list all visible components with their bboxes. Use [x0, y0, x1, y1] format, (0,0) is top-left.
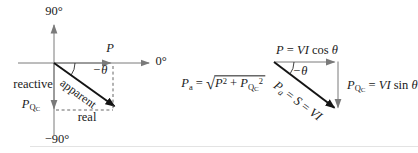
left-0deg-label: 0° [155, 55, 166, 69]
left-pqc-label: PQC [22, 98, 40, 114]
radical-sign: √ [206, 74, 215, 93]
pqc-base: P [22, 97, 30, 111]
left-neg-theta-label: −θ [93, 64, 108, 78]
power-triangle-figure: 90° 0° −90° P −θ apparent reactive real … [0, 0, 418, 153]
left-neg90deg-label: −90° [45, 133, 70, 147]
left-90deg-label: 90° [45, 5, 63, 19]
left-theta-arc [71, 63, 75, 75]
left-real-label: real [78, 111, 97, 125]
right-neg-theta-label: −θ [293, 65, 308, 79]
right-pqc-formula: PQC = VI sin θ [347, 79, 418, 95]
right-sqrt-formula: Pa = √P2 + PQC2 [181, 74, 265, 93]
left-reactive-label: reactive [13, 78, 53, 92]
radicand: P2 + PQC2 [214, 75, 265, 90]
left-p-label: P [106, 42, 114, 56]
right-top-formula: P = VI cos θ [276, 44, 338, 58]
pqc-subsub: C [36, 105, 41, 113]
